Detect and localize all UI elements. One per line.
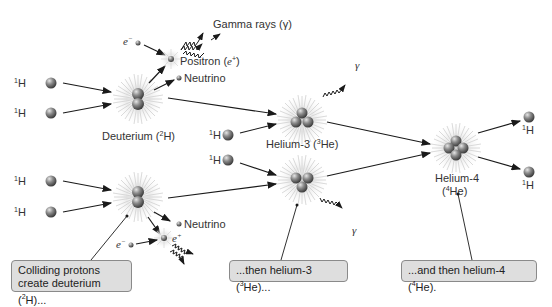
proton-label: 1H <box>14 107 26 120</box>
proton-label: 1H <box>14 206 26 219</box>
proton-label: 1H <box>522 124 534 137</box>
callout-text: Colliding protons <box>18 264 125 277</box>
neutrino-label: Neutrino <box>184 72 226 85</box>
helium3-label: Helium-3 (3He) <box>266 138 338 151</box>
proton-top-2 <box>46 108 57 119</box>
gamma-rays-label: Gamma rays (γ) <box>213 18 292 31</box>
gamma-label: γ <box>355 59 359 72</box>
callout-text: create deuterium (2H)... <box>18 277 125 307</box>
deuterium-label: Deuterium (2H) <box>102 130 175 143</box>
gamma-label: γ <box>352 224 356 237</box>
proton-top-1 <box>46 78 57 89</box>
helium4-symbol: (4He) <box>442 185 467 198</box>
electron-label: e− <box>123 35 133 48</box>
proton-label: 1H <box>209 129 221 142</box>
callout-helium3: ...then helium-3 (3He)... <box>229 260 348 282</box>
callout-deuterium: Colliding protons create deuterium (2H).… <box>11 260 132 292</box>
electron-top <box>136 41 141 46</box>
positron-label: e+ <box>172 232 182 245</box>
proton-label: 1H <box>14 77 26 90</box>
positron-label: Positron (e+) <box>180 55 240 68</box>
proton-label: 1H <box>209 154 221 167</box>
neutrino-label: Neutrino <box>184 218 226 231</box>
callout-helium4: ...and then helium-4 (4He). <box>401 260 537 282</box>
helium4-label: Helium-4 <box>435 172 479 185</box>
electron-label: e− <box>116 238 126 251</box>
proton-label: 1H <box>522 179 534 192</box>
proton-label: 1H <box>14 175 26 188</box>
